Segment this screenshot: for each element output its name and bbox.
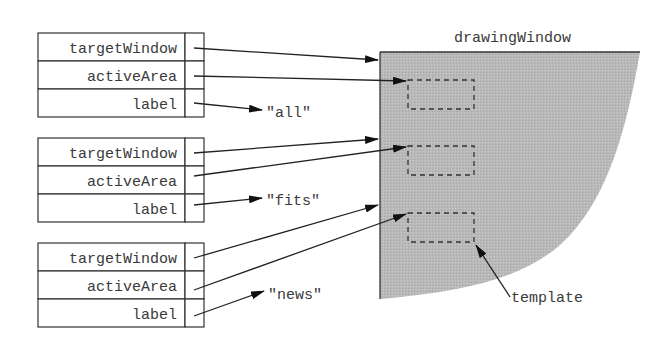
field-target-window: targetWindow xyxy=(69,251,177,268)
field-target-window: targetWindow xyxy=(69,41,177,58)
template-label: template xyxy=(511,290,583,307)
record-3: targetWindow activeArea label "news" xyxy=(38,205,406,327)
pointer-active-area xyxy=(194,147,406,176)
record-1: targetWindow activeArea label "all" xyxy=(38,33,406,122)
field-label: label xyxy=(132,202,177,219)
field-label: label xyxy=(132,307,177,324)
field-target-window: targetWindow xyxy=(69,146,177,163)
pointer-target-window xyxy=(194,48,378,60)
field-label: label xyxy=(132,97,177,114)
field-active-area: activeArea xyxy=(87,174,177,191)
label-value: "fits" xyxy=(266,193,320,210)
field-active-area: activeArea xyxy=(87,279,177,296)
diagram-canvas: drawingWindow template targetWindow acti… xyxy=(0,0,667,342)
label-value: "news" xyxy=(268,287,322,304)
pointer-target-window xyxy=(194,205,378,258)
label-value: "all" xyxy=(266,105,311,122)
pointer-active-area xyxy=(194,76,406,81)
drawing-window-label: drawingWindow xyxy=(454,30,571,47)
drawing-window: drawingWindow xyxy=(380,30,640,299)
pointer-target-window xyxy=(194,139,378,153)
field-active-area: activeArea xyxy=(87,69,177,86)
pointer-active-area xyxy=(194,214,406,290)
record-2: targetWindow activeArea label "fits" xyxy=(38,138,406,222)
